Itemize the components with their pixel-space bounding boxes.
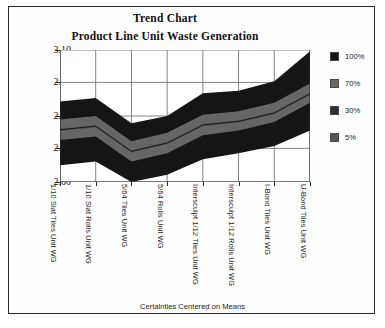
x-category-label: Intersculpt 1/12 Tiles Unit WG xyxy=(191,184,200,285)
x-category-label: I-Bond Tiles Unit WG xyxy=(263,184,272,255)
legend-item[interactable]: 5% xyxy=(330,133,356,142)
legend-item[interactable]: 100% xyxy=(330,52,364,61)
x-tick-mark xyxy=(60,182,61,186)
x-tick-mark xyxy=(96,182,97,186)
legend-label: 100% xyxy=(345,52,364,61)
fan-chart-svg xyxy=(60,50,310,182)
x-tick-mark xyxy=(274,182,275,186)
chart-title: Trend Chart xyxy=(0,12,330,24)
x-tick-mark xyxy=(167,182,168,186)
chart-legend: 100%70%30%5% xyxy=(330,52,382,170)
x-category-label: 1/10 Slat Tiles Unit WG xyxy=(49,184,58,263)
x-tick-mark xyxy=(131,182,132,186)
x-axis-category-labels: 1/10 Slat Tiles Unit WG1/10 Slat Rolls U… xyxy=(60,184,310,302)
legend-label: 5% xyxy=(345,133,356,142)
x-tick-mark xyxy=(310,182,311,186)
x-category-label: Intersculpt 1/12 Rolls Unit WG xyxy=(227,184,236,286)
x-category-label: 5/64 Rolls Unit WG xyxy=(156,184,165,249)
legend-item[interactable]: 30% xyxy=(330,106,360,115)
legend-swatch-icon xyxy=(330,106,339,115)
x-category-label: 1/10 Slat Rolls Unit WG xyxy=(84,184,93,264)
legend-label: 30% xyxy=(345,106,360,115)
x-axis-title: Certainties Centered on Means xyxy=(0,302,385,311)
chart-subtitle: Product Line Unit Waste Generation xyxy=(0,30,330,42)
x-category-label: U-Bond Tiles Unit WG xyxy=(299,184,308,258)
legend-item[interactable]: 70% xyxy=(330,79,360,88)
x-tick-mark xyxy=(239,182,240,186)
x-tick-mark xyxy=(203,182,204,186)
plot-area xyxy=(60,50,310,182)
legend-swatch-icon xyxy=(330,133,339,142)
legend-swatch-icon xyxy=(330,79,339,88)
legend-label: 70% xyxy=(345,79,360,88)
legend-swatch-icon xyxy=(330,52,339,61)
x-category-label: 5/64 Tiles Unit WG xyxy=(120,184,129,247)
